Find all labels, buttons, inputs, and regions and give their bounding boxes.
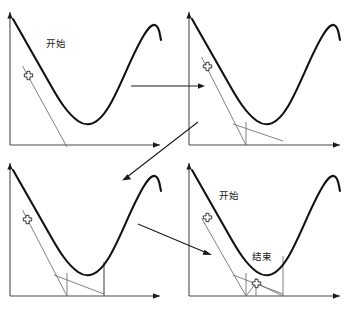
gradient-descent-figure: 开始 bbox=[0, 0, 347, 313]
panel-1-objective-curve bbox=[13, 19, 161, 124]
panel-4-start-label: 开始 bbox=[219, 190, 239, 201]
panel-gradient-descent-step-4: 开始 结束 bbox=[186, 163, 340, 299]
panel-2-tangent-lines bbox=[202, 57, 284, 145]
flow-arrow-step2-to-step3 bbox=[122, 122, 198, 181]
panel-1-start-label: 开始 bbox=[46, 38, 66, 49]
panel-3-current-point-marker bbox=[23, 215, 31, 223]
panel-3-objective-curve bbox=[13, 170, 161, 275]
panel-3-axes bbox=[7, 163, 160, 299]
panel-gradient-descent-step-2 bbox=[186, 12, 340, 148]
flow-arrow-step3-to-step4 bbox=[138, 224, 212, 255]
panel-2-axes bbox=[186, 12, 340, 148]
panel-4-start-point-marker bbox=[203, 213, 211, 221]
panel-2-objective-curve bbox=[192, 19, 340, 124]
flow-arrow-step1-to-step2 bbox=[131, 83, 205, 88]
panel-4-axes bbox=[186, 163, 340, 299]
panel-3-tangent-lines bbox=[23, 210, 105, 296]
panel-1-current-point-marker bbox=[24, 71, 32, 79]
panel-gradient-descent-step-1: 开始 bbox=[7, 12, 161, 148]
panel-4-end-label: 结束 bbox=[252, 251, 272, 262]
panel-gradient-descent-step-3 bbox=[7, 163, 161, 299]
figure-canvas: 开始 bbox=[0, 0, 347, 313]
